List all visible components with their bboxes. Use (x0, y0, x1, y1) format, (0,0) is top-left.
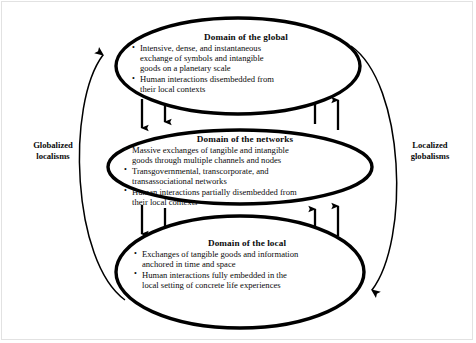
ellipse-local-title: Domain of the local (130, 238, 364, 248)
bullet-line: their local contexts (140, 84, 205, 94)
label-line: globalisms (392, 151, 468, 162)
list-item: Massive exchanges of tangible and intang… (132, 145, 370, 165)
bullet-line: Exchanges of tangible goods and informat… (142, 249, 298, 259)
list-item: Human interactions partially disembedded… (132, 187, 370, 207)
ellipse-local-content: Domain of the local Exchanges of tangibl… (130, 238, 364, 291)
list-item: Intensive, dense, and instantaneous exch… (140, 43, 364, 74)
networks-to-global-arrows (315, 100, 338, 130)
ellipse-global-title: Domain of the global (128, 32, 364, 42)
bullet-line: transassociational networks (132, 176, 227, 186)
ellipse-networks-content: Domain of the networks Massive exchanges… (120, 134, 370, 208)
bullet-line: goods on a planetary scale (140, 63, 231, 73)
label-line: Localized (392, 140, 468, 151)
label-globalized-localisms: Globalized localisms (14, 140, 92, 161)
bullet-line: Transgovernmental, transcorporate, and (132, 166, 269, 176)
list-item: Human interactions disembedded from thei… (140, 74, 364, 94)
ellipse-networks-bullets: Massive exchanges of tangible and intang… (120, 145, 370, 207)
list-item: Transgovernmental, transcorporate, and t… (132, 166, 370, 186)
list-item: Human interactions fully embedded in the… (142, 270, 364, 290)
bullet-line: their local contexts (132, 197, 197, 207)
diagram-page: Domain of the global Intensive, dense, a… (0, 0, 476, 343)
label-line: Globalized (14, 140, 92, 151)
bullet-line: Human interactions fully embedded in the (142, 270, 287, 280)
ellipse-global-bullets: Intensive, dense, and instantaneous exch… (128, 43, 364, 95)
bullet-line: anchored in time and space (142, 259, 236, 269)
ellipse-networks-title: Domain of the networks (120, 134, 370, 144)
bullet-line: exchange of symbols and intangible (140, 53, 264, 63)
bullet-line: local setting of concrete life experienc… (142, 280, 281, 290)
bullet-line: Human interactions disembedded from (140, 74, 274, 84)
bullet-line: goods through multiple channels and node… (132, 155, 281, 165)
ellipse-local-bullets: Exchanges of tangible goods and informat… (130, 249, 364, 290)
label-line: localisms (14, 151, 92, 162)
bullet-line: Massive exchanges of tangible and intang… (132, 145, 289, 155)
label-localized-globalisms: Localized globalisms (392, 140, 468, 161)
bullet-line: Intensive, dense, and instantaneous (140, 43, 261, 53)
bullet-line: Human interactions partially disembedded… (132, 187, 297, 197)
ellipse-global-content: Domain of the global Intensive, dense, a… (128, 32, 364, 95)
list-item: Exchanges of tangible goods and informat… (142, 249, 364, 269)
